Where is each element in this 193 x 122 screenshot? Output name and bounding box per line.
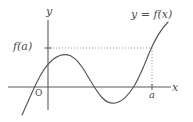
origin-label: O <box>35 89 42 98</box>
function-curve <box>22 22 168 115</box>
curve-equation-label: y = f(x) <box>131 9 172 20</box>
y-axis-label: y <box>46 6 52 17</box>
function-graph-figure: y x O f(a) a y = f(x) <box>0 0 193 122</box>
abscissa-label: a <box>149 90 155 100</box>
function-value-label: f(a) <box>13 41 32 52</box>
x-axis-label: x <box>172 82 178 93</box>
